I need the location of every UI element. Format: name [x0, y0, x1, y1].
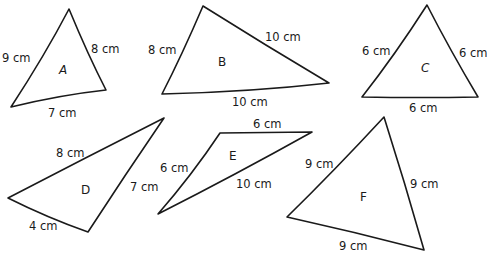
triangle-f-label: F — [360, 190, 367, 204]
triangle-f-side-bottom: 9 cm — [339, 239, 368, 253]
triangle-c-side-bottom: 6 cm — [409, 101, 438, 115]
triangle-d-side-right: 7 cm — [130, 180, 159, 194]
triangle-b-side-left: 8 cm — [148, 43, 177, 57]
triangle-f-outline — [287, 117, 424, 250]
triangle-b-label: B — [218, 55, 226, 69]
triangle-e-side-left: 6 cm — [160, 161, 189, 175]
triangle-a-side-left: 9 cm — [2, 51, 31, 65]
triangle-e-side-top: 6 cm — [253, 117, 282, 131]
triangle-b-outline — [162, 6, 329, 94]
triangle-e: 6 cm 6 cm 10 cm E — [158, 117, 312, 214]
triangle-b-side-right: 10 cm — [265, 30, 301, 44]
triangle-a: 9 cm 8 cm 7 cm A — [2, 9, 120, 120]
triangle-d-outline — [8, 118, 164, 232]
triangle-a-side-bottom: 7 cm — [48, 106, 77, 120]
triangle-e-side-bottom: 10 cm — [236, 177, 272, 191]
triangle-a-side-right: 8 cm — [91, 42, 120, 56]
triangle-f-side-right: 9 cm — [410, 177, 439, 191]
triangle-e-label: E — [229, 149, 237, 163]
triangle-d-label: D — [81, 183, 90, 197]
triangle-c-label: C — [421, 61, 430, 75]
triangle-d-side-top: 8 cm — [56, 146, 85, 160]
triangle-c-side-right: 6 cm — [459, 46, 487, 60]
triangle-c-side-left: 6 cm — [362, 44, 391, 58]
triangle-b: 8 cm 10 cm 10 cm B — [148, 6, 329, 109]
triangle-f-side-left: 9 cm — [305, 157, 334, 171]
triangle-c: 6 cm 6 cm 6 cm C — [362, 5, 487, 115]
triangle-a-label: A — [58, 63, 67, 77]
triangle-d-side-bottom: 4 cm — [29, 219, 58, 233]
triangle-f: 9 cm 9 cm 9 cm F — [287, 117, 439, 253]
triangle-d: 8 cm 7 cm 4 cm D — [8, 118, 164, 233]
triangle-b-side-bottom: 10 cm — [232, 95, 268, 109]
